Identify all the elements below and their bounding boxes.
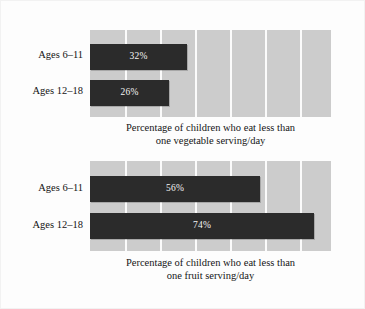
category-label-ages-6-11: Ages 6–11: [0, 183, 83, 194]
caption-line-2: one fruit serving/day: [90, 269, 331, 282]
category-label-ages-6-11: Ages 6–11: [0, 50, 83, 61]
bar-value-label: 32%: [90, 52, 187, 62]
category-label-ages-12-18: Ages 12–18: [0, 86, 83, 97]
plot-area-fruit: 56% 74%: [90, 161, 331, 251]
bar-ages-6-11: 56%: [90, 176, 260, 202]
chart-caption-fruit: Percentage of children who eat less than…: [90, 256, 331, 283]
chart-caption-vegetable: Percentage of children who eat less than…: [90, 121, 331, 148]
gridline: [300, 30, 302, 117]
category-label-ages-12-18: Ages 12–18: [0, 220, 83, 231]
gridline: [265, 30, 267, 117]
chart-panel-vegetable: Ages 6–11 Ages 12–18 32% 26% Percentage …: [1, 17, 365, 152]
caption-line-1: Percentage of children who eat less than: [90, 121, 331, 134]
caption-line-1: Percentage of children who eat less than: [90, 256, 331, 269]
caption-line-2: one vegetable serving/day: [90, 134, 331, 147]
chart-panel-fruit: Ages 6–11 Ages 12–18 56% 74% Percentage …: [1, 149, 365, 299]
bar-value-label: 26%: [90, 88, 169, 98]
bar-ages-12-18: 26%: [90, 80, 169, 106]
bar-ages-12-18: 74%: [90, 213, 314, 239]
bar-value-label: 74%: [90, 221, 314, 231]
gridline: [230, 30, 232, 117]
gridline: [195, 30, 197, 117]
bar-ages-6-11: 32%: [90, 44, 187, 70]
bar-value-label: 56%: [90, 184, 260, 194]
plot-area-vegetable: 32% 26%: [90, 30, 331, 117]
figure-container: Ages 6–11 Ages 12–18 32% 26% Percentage …: [0, 0, 365, 309]
